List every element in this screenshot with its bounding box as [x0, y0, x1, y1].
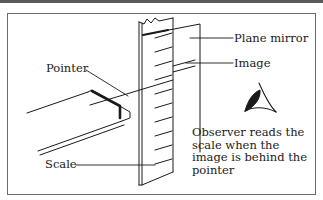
vertical-scale [139, 18, 173, 185]
observer-caption: Observer reads the scale when the image … [192, 126, 310, 176]
scale-ticks [155, 33, 172, 164]
observer-caption-line: pointer [192, 164, 310, 177]
eye-icon [245, 83, 276, 112]
plane-mirror-label: Plane mirror [234, 32, 308, 44]
observer-caption-line: Observer reads the [192, 126, 310, 139]
pointer-label: Pointer [46, 62, 88, 74]
observer-caption-line: image is behind the [192, 151, 310, 164]
pointer-image-reflection [173, 60, 195, 72]
scale-label: Scale [45, 158, 77, 170]
image-label: Image [234, 57, 270, 69]
pointer-arm [27, 90, 130, 155]
